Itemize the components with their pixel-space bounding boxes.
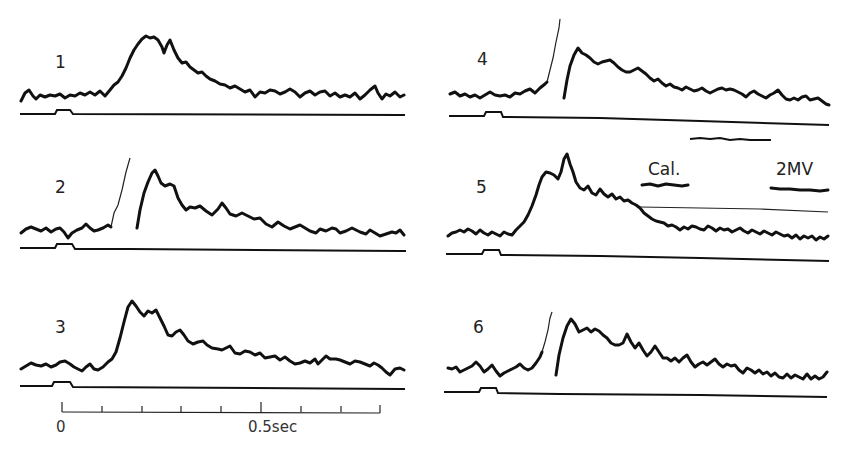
trace-panel-1: 1	[20, 36, 405, 115]
trace-4-rising-edge	[547, 19, 560, 82]
stimulus-marker-5	[446, 250, 829, 261]
trace-3	[21, 301, 404, 375]
trace-panel-2: 2	[20, 158, 406, 251]
stimulus-marker-1	[20, 110, 405, 115]
panel-label-6: 6	[473, 317, 484, 337]
calibration-baseline	[640, 207, 828, 212]
calibration-bar-right	[771, 188, 828, 191]
trace-panel-5: Cal. 2MV 5	[446, 154, 829, 261]
trace-2-post	[137, 170, 404, 236]
stimulus-marker-4	[449, 112, 829, 125]
panel-label-5: 5	[476, 177, 487, 197]
stimulus-marker-6	[444, 388, 827, 397]
trace-6-rising-edge	[542, 312, 552, 352]
time-axis-zero-label: 0	[56, 418, 66, 436]
trace-4-post	[564, 48, 829, 105]
figure-canvas: 1 2 3 0 0.5sec 4	[0, 0, 843, 450]
trace-5	[448, 154, 828, 240]
panel-label-1: 1	[55, 52, 66, 72]
stimulus-marker-2	[20, 244, 406, 251]
trace-panel-3: 3	[20, 301, 405, 389]
calibration-bar-left	[642, 184, 688, 186]
calibration-value-label: 2MV	[776, 159, 813, 179]
stimulus-marker-3	[20, 382, 405, 389]
trace-panel-4: 4	[449, 19, 829, 140]
panel-label-4: 4	[477, 49, 488, 69]
time-axis: 0 0.5sec	[56, 402, 380, 436]
trace-2-rising-edge	[111, 158, 130, 227]
time-axis-half-second-label: 0.5sec	[248, 418, 297, 436]
calibration-reference-line-top	[690, 138, 771, 140]
time-axis-line	[62, 412, 380, 413]
panel-label-3: 3	[55, 317, 66, 337]
trace-2	[21, 224, 111, 238]
trace-panel-6: 6	[444, 312, 827, 397]
trace-6-post	[556, 319, 827, 379]
calibration-label: Cal.	[648, 159, 680, 179]
panel-label-2: 2	[55, 177, 66, 197]
trace-6	[448, 352, 542, 376]
trace-4	[450, 82, 547, 98]
trace-1	[21, 36, 404, 101]
